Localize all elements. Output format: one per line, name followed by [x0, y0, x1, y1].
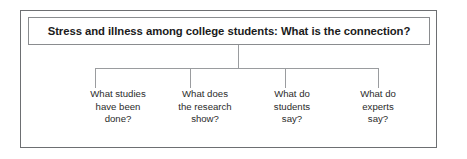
branch-label-line: experts	[323, 101, 433, 114]
branch-label-row: What studies have been done? What does t…	[20, 88, 437, 140]
root-node-box: Stress and illness among college student…	[28, 17, 430, 45]
branch-label-line: What do	[323, 88, 433, 101]
branch-label-what-do-experts-say: What do experts say?	[323, 88, 433, 126]
figure-canvas: Stress and illness among college student…	[0, 0, 467, 159]
root-node-label: Stress and illness among college student…	[48, 25, 411, 37]
branch-label-line: say?	[323, 113, 433, 126]
